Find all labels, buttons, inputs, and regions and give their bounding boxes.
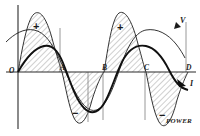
label-origin: O: [9, 67, 14, 75]
label-point-b: B: [102, 64, 107, 72]
label-power-caption: POWER: [166, 118, 192, 125]
power-lobe-positive-2: [104, 12, 146, 72]
label-voltage-curve: V: [180, 17, 185, 25]
label-point-c: C: [144, 64, 149, 72]
label-plus-region-2: +: [117, 22, 123, 33]
ac-power-waveform-figure: O A B C D V I + + − − POWER: [0, 0, 200, 136]
waveform-plot: [0, 0, 200, 136]
label-minus-region-1: −: [72, 108, 78, 119]
label-current-curve: I: [190, 80, 193, 88]
label-plus-region-1: +: [33, 21, 39, 32]
label-point-d: D: [186, 64, 191, 72]
label-point-a: A: [60, 64, 65, 72]
label-minus-region-2: −: [159, 110, 165, 121]
